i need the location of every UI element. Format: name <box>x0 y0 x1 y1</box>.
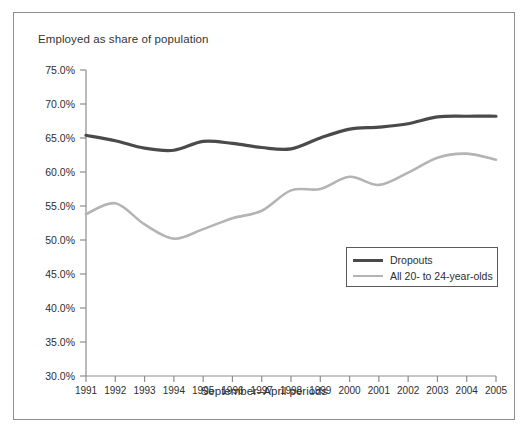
x-axis-title: September–April periods <box>14 385 514 397</box>
legend: Dropouts All 20- to 24-year-olds <box>346 247 498 287</box>
legend-swatch-dropouts <box>353 259 383 262</box>
legend-label-dropouts: Dropouts <box>390 254 433 266</box>
y-axis-tick-label: 75.0% <box>45 64 75 76</box>
legend-item-dropouts: Dropouts <box>353 252 491 268</box>
legend-label-all-20-to-24: All 20- to 24-year-olds <box>390 270 493 282</box>
y-axis-tick-label: 35.0% <box>45 336 75 348</box>
legend-item-all-20-to-24: All 20- to 24-year-olds <box>353 268 491 284</box>
y-axis-tick-label: 65.0% <box>45 132 75 144</box>
plot-area: 30.0%35.0%40.0%45.0%50.0%55.0%60.0%65.0%… <box>14 13 516 421</box>
legend-swatch-all-20-to-24 <box>353 275 383 277</box>
y-axis-tick-label: 55.0% <box>45 200 75 212</box>
series-line <box>86 116 496 150</box>
y-axis-tick-label: 50.0% <box>45 234 75 246</box>
y-axis-ticks <box>80 70 86 376</box>
y-axis-tick-label: 30.0% <box>45 370 75 382</box>
chart-svg: 30.0%35.0%40.0%45.0%50.0%55.0%60.0%65.0%… <box>14 13 516 421</box>
series-lines <box>86 116 496 239</box>
y-axis-tick-labels: 30.0%35.0%40.0%45.0%50.0%55.0%60.0%65.0%… <box>45 64 75 382</box>
y-axis-tick-label: 60.0% <box>45 166 75 178</box>
x-axis-ticks <box>86 376 496 382</box>
series-line <box>86 154 496 239</box>
y-axis-tick-label: 70.0% <box>45 98 75 110</box>
y-axis-tick-label: 40.0% <box>45 302 75 314</box>
y-axis-tick-label: 45.0% <box>45 268 75 280</box>
figure-frame: Employed as share of population 30.0%35.… <box>13 12 515 420</box>
